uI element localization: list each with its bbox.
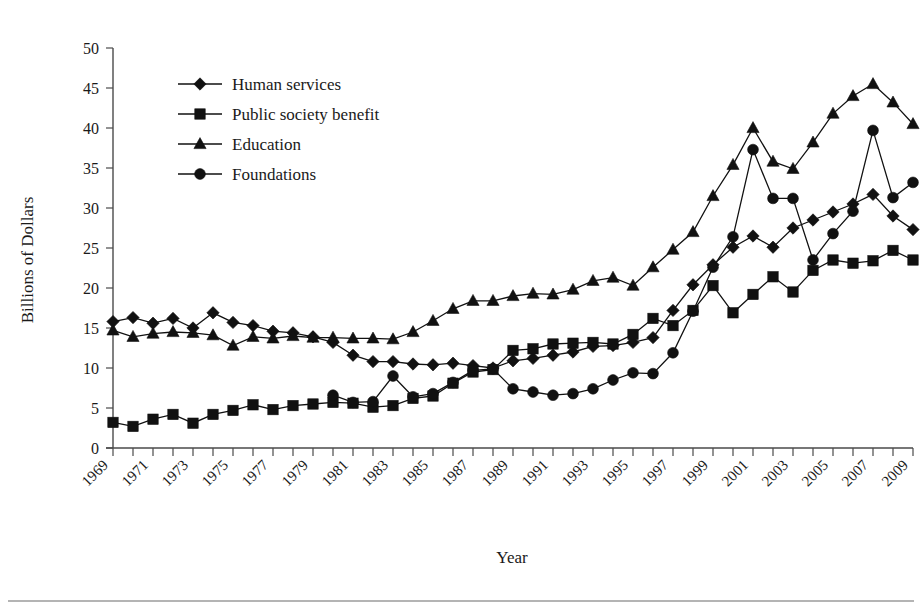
data-point (108, 417, 118, 427)
data-point (447, 302, 459, 313)
data-point (908, 177, 919, 188)
data-point (527, 287, 539, 298)
data-point (427, 314, 439, 325)
data-point (768, 193, 779, 204)
legend-item-foundations: Foundations (178, 165, 316, 184)
y-axis-title: Billions of Dollars (18, 197, 37, 324)
x-tick-label: 1971 (119, 457, 152, 490)
data-point (107, 324, 119, 335)
data-point (688, 306, 699, 317)
data-point (208, 409, 218, 419)
data-point (328, 390, 339, 401)
data-point (367, 355, 379, 367)
data-point (308, 399, 318, 409)
line-chart: 05101520253035404550 1969197119731975197… (0, 0, 922, 610)
data-point (427, 359, 439, 371)
data-point (508, 383, 519, 394)
data-point (588, 383, 599, 394)
data-point (908, 255, 918, 265)
data-point (548, 339, 558, 349)
data-point (748, 289, 758, 299)
data-point (288, 400, 298, 410)
data-point (567, 283, 579, 294)
x-tick-label: 1991 (519, 457, 552, 490)
data-point (408, 391, 419, 402)
data-point (867, 78, 879, 89)
chart-figure: 05101520253035404550 1969197119731975197… (0, 0, 922, 610)
data-point (647, 261, 659, 272)
data-point (227, 316, 239, 328)
y-tick-labels: 05101520253035404550 (83, 40, 99, 457)
legend-label: Education (232, 135, 301, 154)
y-tick-label: 5 (91, 400, 99, 417)
x-tick-marks (113, 448, 913, 456)
legend-item-education: Education (178, 135, 301, 154)
data-point (568, 388, 579, 399)
y-tick-label: 0 (91, 440, 99, 457)
data-point (728, 231, 739, 242)
legend-label: Public society benefit (232, 105, 380, 124)
x-tick-label: 1997 (639, 456, 672, 489)
axes-group (106, 48, 913, 456)
data-point (347, 349, 359, 361)
data-point (608, 375, 619, 386)
series-line (113, 250, 913, 426)
data-point (368, 396, 379, 407)
y-tick-label: 10 (83, 360, 99, 377)
x-tick-label: 1995 (599, 457, 632, 490)
data-point (748, 144, 759, 155)
y-tick-label: 45 (83, 80, 99, 97)
y-tick-label: 40 (83, 120, 99, 137)
data-point (127, 311, 139, 323)
data-point (807, 214, 819, 226)
data-point (167, 326, 179, 337)
data-point (828, 228, 839, 239)
x-tick-label: 1989 (479, 457, 512, 490)
x-tick-label: 1969 (79, 457, 112, 490)
data-point (708, 262, 719, 273)
data-point (547, 349, 559, 361)
data-point (168, 409, 178, 419)
data-point (648, 368, 659, 379)
legend-marker-diamond-icon (194, 78, 206, 90)
data-point (747, 122, 759, 133)
legend-item-human-services: Human services (178, 75, 341, 94)
data-point (347, 332, 359, 343)
data-point (207, 307, 219, 319)
data-point (848, 206, 859, 217)
legend-marker-circle-icon (195, 169, 206, 180)
data-point (828, 255, 838, 265)
x-tick-label: 1979 (279, 457, 312, 490)
data-point (667, 304, 679, 316)
data-point (768, 272, 778, 282)
data-point (847, 90, 859, 101)
data-point (588, 337, 598, 347)
data-point (248, 400, 258, 410)
x-tick-label: 1975 (199, 457, 232, 490)
data-point (188, 418, 198, 428)
data-point (608, 339, 618, 349)
x-tick-label: 1985 (399, 457, 432, 490)
data-point (407, 358, 419, 370)
data-point (167, 312, 179, 324)
data-point (628, 367, 639, 378)
data-point (807, 136, 819, 147)
data-point (848, 258, 858, 268)
x-tick-label: 2001 (719, 457, 752, 490)
data-point (388, 371, 399, 382)
series-line (333, 130, 913, 402)
legend-label: Human services (232, 75, 341, 94)
y-tick-marks (106, 48, 113, 448)
x-tick-label: 2009 (879, 457, 912, 490)
x-tick-label: 2005 (799, 457, 832, 490)
y-tick-label: 35 (83, 160, 99, 177)
data-point (508, 345, 518, 355)
series-group (107, 78, 919, 432)
data-point (228, 405, 238, 415)
x-tick-label: 2003 (759, 457, 792, 490)
data-point (827, 206, 839, 218)
data-point (128, 421, 138, 431)
data-point (747, 230, 759, 242)
y-tick-label: 25 (83, 240, 99, 257)
y-tick-label: 20 (83, 280, 99, 297)
